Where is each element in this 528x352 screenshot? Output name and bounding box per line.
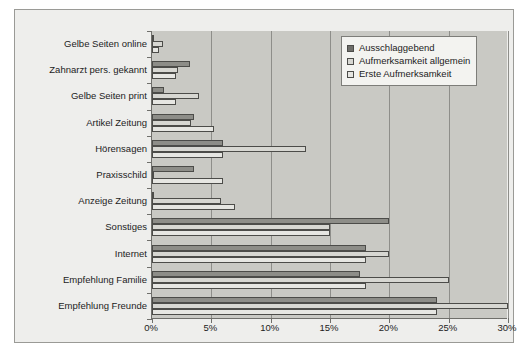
y-axis-category-label: Hörensagen: [95, 143, 147, 154]
x-axis-tick-label: 20%: [379, 322, 398, 333]
legend-swatch-mid-icon: [347, 58, 354, 65]
y-axis-tick: [147, 31, 152, 32]
legend-item: Ausschlaggebend: [347, 42, 470, 54]
legend-swatch-light-icon: [347, 71, 354, 78]
y-axis-category-label: Gelbe Seiten online: [64, 38, 147, 49]
x-axis-tick-label: 0%: [144, 322, 158, 333]
legend-swatch-dark-icon: [347, 45, 354, 52]
x-axis-tick-label: 25%: [438, 322, 457, 333]
x-axis-tick-label: 30%: [497, 322, 516, 333]
chart-plot-area-background: Gelbe Seiten onlineZahnarzt pers. gekann…: [14, 9, 514, 343]
y-axis-category-label: Praxisschild: [96, 169, 147, 180]
y-axis-category-label: Anzeige Zeitung: [78, 195, 147, 206]
y-axis-category-label: Internet: [115, 248, 147, 259]
y-axis-category-label: Empfehlung Freunde: [58, 300, 147, 311]
legend-item-label: Erste Aufmerksamkeit: [359, 68, 451, 80]
y-axis-tick: [147, 188, 152, 189]
y-axis-tick: [147, 162, 152, 163]
y-axis-tick: [147, 293, 152, 294]
y-axis-tick: [147, 240, 152, 241]
y-axis-tick: [147, 214, 152, 215]
legend-item: Erste Aufmerksamkeit: [347, 68, 470, 80]
y-axis-tick: [147, 57, 152, 58]
x-axis-tick-label: 15%: [319, 322, 338, 333]
y-axis-tick: [147, 83, 152, 84]
y-axis-category-label: Gelbe Seiten print: [71, 90, 147, 101]
y-axis-category-label: Sonstiges: [105, 221, 147, 232]
legend-item: Aufmerksamkeit allgemein: [347, 55, 470, 67]
y-axis-tick: [147, 267, 152, 268]
y-axis-labels: Gelbe Seiten onlineZahnarzt pers. gekann…: [23, 31, 147, 319]
legend-item-label: Aufmerksamkeit allgemein: [359, 55, 470, 67]
bar-chart-figure: Gelbe Seiten onlineZahnarzt pers. gekann…: [0, 0, 528, 352]
y-axis-tick: [147, 319, 152, 320]
y-axis-category-label: Artikel Zeitung: [86, 117, 147, 128]
x-axis-tick-label: 5%: [203, 322, 217, 333]
x-axis-labels: 0%5%10%15%20%25%30%: [151, 322, 507, 342]
x-axis-tick-label: 10%: [260, 322, 279, 333]
legend-item-label: Ausschlaggebend: [359, 42, 435, 54]
y-axis-tick: [147, 110, 152, 111]
y-axis-category-label: Empfehlung Familie: [63, 274, 147, 285]
chart-legend: AusschlaggebendAufmerksamkeit allgemeinE…: [341, 36, 477, 86]
y-axis-category-label: Zahnarzt pers. gekannt: [49, 64, 147, 75]
y-axis-tick: [147, 136, 152, 137]
gridline: [508, 31, 509, 318]
